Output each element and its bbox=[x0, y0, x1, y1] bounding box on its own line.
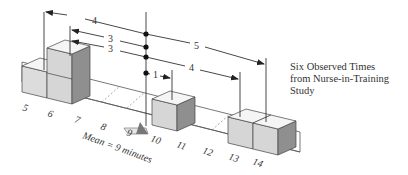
deviation-label: 4 bbox=[189, 62, 194, 73]
tick-label: 5 bbox=[21, 102, 29, 114]
deviation-label: 5 bbox=[194, 40, 199, 51]
figure-caption: Six Observed Times from Nurse-in-Trainin… bbox=[290, 61, 408, 97]
caption-line: from Nurse-in-Training bbox=[290, 73, 408, 85]
tick-label: 13 bbox=[227, 151, 240, 165]
tick-label: 14 bbox=[251, 156, 264, 170]
tick-label: 10 bbox=[149, 133, 162, 147]
tick-label: 6 bbox=[46, 108, 54, 120]
deviation-label: 4 bbox=[92, 15, 97, 26]
tick-label: 11 bbox=[175, 139, 187, 153]
tick-label: 12 bbox=[201, 145, 214, 159]
deviation-label: 3 bbox=[108, 43, 113, 54]
deviation-label: 1 bbox=[153, 69, 158, 80]
tick-label: 8 bbox=[99, 121, 107, 133]
block-10 bbox=[152, 91, 195, 131]
tick-label: 7 bbox=[73, 114, 82, 126]
block-14 bbox=[253, 115, 296, 155]
caption-line: Six Observed Times bbox=[290, 61, 408, 73]
mean-label: Mean = 9 minutes bbox=[80, 129, 154, 165]
caption-line: Study bbox=[290, 85, 408, 97]
block-6-stack bbox=[47, 40, 90, 104]
